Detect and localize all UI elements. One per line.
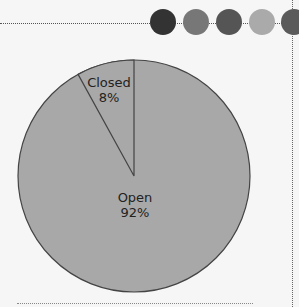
closed-pct: 8%: [84, 90, 134, 105]
footer-dotted-line: [17, 303, 253, 304]
open-name: Open: [110, 190, 160, 205]
pie-chart: [0, 0, 299, 307]
closed-label: Closed 8%: [84, 75, 134, 105]
closed-name: Closed: [84, 75, 134, 90]
open-pct: 92%: [110, 205, 160, 220]
open-label: Open 92%: [110, 190, 160, 220]
